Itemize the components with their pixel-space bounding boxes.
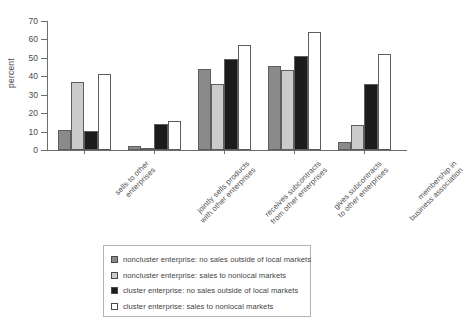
- legend-item[interactable]: cluster enterprise: sales to nonlocal ma…: [111, 299, 303, 315]
- bar: [364, 84, 377, 150]
- legend-item[interactable]: noncluster enterprise: no sales outside …: [111, 252, 303, 268]
- legend-item-label: cluster enterprise: no sales outside of …: [123, 286, 298, 295]
- legend-swatch-icon: [111, 303, 118, 310]
- x-axis-category-label: receives subcontractsfrom other enterpri…: [263, 159, 330, 226]
- bar: [141, 148, 154, 150]
- bar: [84, 131, 97, 150]
- legend-item-label: noncluster enterprise: sales to nonlocal…: [123, 271, 286, 280]
- bar: [268, 66, 281, 150]
- bar: [224, 59, 237, 150]
- plot-area: percent 010203040506070: [0, 0, 413, 160]
- bar: [128, 146, 141, 150]
- legend-swatch-icon: [111, 287, 118, 294]
- legend-item[interactable]: cluster enterprise: no sales outside of …: [111, 283, 303, 299]
- bar: [308, 32, 321, 150]
- bar: [168, 121, 181, 150]
- bar: [294, 56, 307, 150]
- bars-layer: [0, 0, 413, 160]
- x-axis-category-label: sells to otherenterprises: [113, 159, 157, 203]
- category-label-line: receives subcontracts: [263, 159, 324, 220]
- bar: [238, 45, 251, 150]
- bar: [198, 69, 211, 150]
- chart-legend: noncluster enterprise: no sales outside …: [103, 245, 311, 317]
- category-label-line: membership in: [402, 159, 459, 216]
- legend-swatch-icon: [111, 256, 118, 263]
- bar: [211, 84, 224, 150]
- legend-item[interactable]: noncluster enterprise: sales to nonlocal…: [111, 268, 303, 284]
- legend-swatch-icon: [111, 272, 118, 279]
- x-axis-category-label: membership inbusiness association: [402, 159, 465, 223]
- category-label-line: jointly sells products: [192, 159, 251, 218]
- bar: [338, 142, 351, 150]
- bar: [378, 54, 391, 150]
- bar: [71, 82, 84, 150]
- bar: [351, 125, 364, 150]
- x-axis-category-label: jointly sells productswith other enterpr…: [192, 159, 258, 225]
- bar: [281, 70, 294, 150]
- legend-item-label: noncluster enterprise: no sales outside …: [123, 255, 311, 264]
- bar: [58, 130, 71, 150]
- bar: [154, 124, 167, 150]
- bar: [98, 74, 111, 150]
- legend-item-label: cluster enterprise: sales to nonlocal ma…: [123, 302, 273, 311]
- x-axis-category-label: gives subcontractsto other enterprises: [330, 159, 391, 220]
